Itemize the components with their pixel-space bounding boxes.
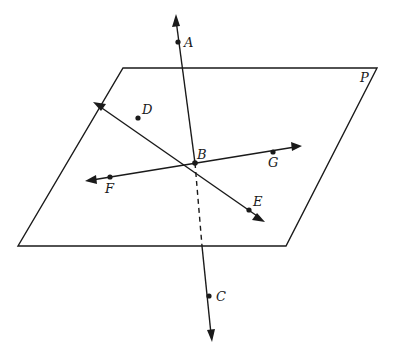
arrowhead-g-icon: [291, 142, 302, 151]
label-b: B: [196, 147, 207, 162]
line-ac-lower: [202, 246, 211, 334]
arrowhead-f-icon: [85, 175, 97, 184]
line-de: [99, 106, 260, 218]
label-c: C: [216, 289, 226, 304]
arrowhead-up-icon: [172, 14, 180, 27]
arrowhead-down-icon: [207, 329, 215, 342]
point-f: [107, 174, 112, 179]
label-e: E: [252, 194, 263, 209]
label-g: G: [268, 155, 278, 170]
point-g: [270, 149, 275, 154]
label-p: P: [359, 70, 369, 85]
point-e: [246, 207, 251, 212]
point-a: [175, 39, 180, 44]
point-c: [206, 293, 211, 298]
label-d: D: [141, 102, 153, 117]
label-f: F: [104, 181, 115, 196]
label-a: A: [183, 35, 193, 50]
point-d: [135, 115, 140, 120]
geometry-diagram: P A B C D E F G: [0, 0, 396, 359]
